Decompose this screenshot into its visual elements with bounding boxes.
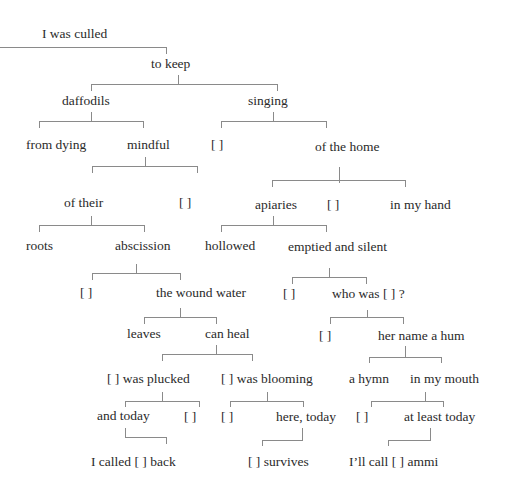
connector-in-my-mouth — [372, 392, 444, 407]
connector-who-was — [331, 310, 404, 324]
connector-abscission — [93, 264, 181, 280]
node-abscission: abscission — [115, 238, 171, 254]
node-can-heal: can heal — [205, 326, 250, 342]
node-ill-call-ammi: I’ll call [ ] ammi — [349, 454, 438, 470]
connector-emptied — [293, 268, 367, 284]
node-her-name-a-hum: her name a hum — [378, 328, 465, 344]
connector-was-blooming — [231, 392, 304, 407]
node-apiaries: apiaries — [255, 197, 297, 213]
node-and-today: and today — [97, 408, 150, 424]
node-here-today: here, today — [276, 409, 336, 425]
node-blank-who: [ ] — [319, 328, 331, 344]
node-i-called-back: I called [ ] back — [91, 454, 176, 470]
connector-to-keep — [92, 75, 278, 91]
node-daffodils: daffodils — [62, 93, 110, 109]
connector-mindful — [93, 157, 198, 173]
node-who-was: who was [ ] ? — [332, 286, 405, 302]
connector-of-the-home — [273, 167, 406, 187]
node-blank-mindful: [ ] — [179, 195, 191, 211]
connector-daffodils — [40, 112, 144, 128]
node-blank-mouth: [ ] — [356, 409, 368, 425]
node-blank-singing: [ ] — [211, 137, 223, 153]
node-i-was-culled: I was culled — [42, 26, 107, 42]
node-blank-emptied: [ ] — [283, 286, 295, 302]
node-was-blooming: [ ] was blooming — [221, 371, 313, 387]
node-blank-blooming: [ ] — [221, 409, 233, 425]
node-emptied-and-silent: emptied and silent — [288, 239, 387, 255]
connector-wound-water — [145, 308, 217, 324]
connector-singing — [222, 112, 327, 128]
node-was-plucked: [ ] was plucked — [107, 371, 190, 387]
node-hollowed: hollowed — [205, 238, 255, 254]
connector-at-least-today — [389, 428, 431, 446]
connector-her-name — [370, 346, 442, 363]
node-at-least-today: at least today — [404, 409, 475, 425]
node-mindful: mindful — [127, 137, 170, 153]
connector-root — [0, 48, 167, 55]
node-survives: [ ] survives — [248, 454, 309, 470]
node-leaves: leaves — [127, 326, 161, 342]
node-of-their: of their — [64, 195, 103, 211]
connector-and-today — [126, 428, 167, 444]
node-blank-home: [ ] — [327, 197, 339, 213]
connector-can-heal — [163, 345, 253, 361]
node-singing: singing — [248, 93, 288, 109]
connector-here-today — [263, 428, 303, 446]
connector-was-plucked — [126, 392, 200, 407]
node-blank-abscission: [ ] — [80, 285, 92, 301]
node-the-wound-water: the wound water — [156, 285, 246, 301]
node-in-my-hand: in my hand — [390, 197, 451, 213]
node-to-keep: to keep — [151, 56, 190, 72]
connector-apiaries — [222, 216, 327, 232]
node-of-the-home: of the home — [315, 139, 379, 155]
node-in-my-mouth: in my mouth — [410, 371, 479, 387]
node-roots: roots — [26, 238, 53, 254]
node-a-hymn: a hymn — [349, 371, 389, 387]
connector-of-their — [40, 216, 145, 232]
node-blank-plucked: [ ] — [184, 409, 196, 425]
node-from-dying: from dying — [26, 137, 86, 153]
